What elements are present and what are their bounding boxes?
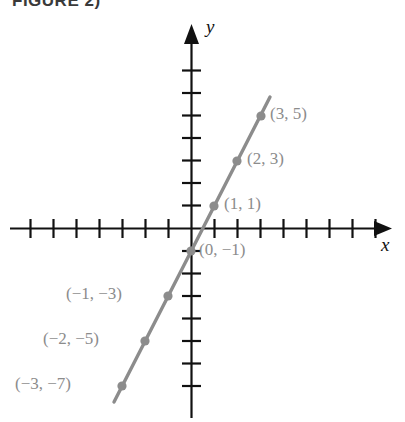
x-axis-label: x — [381, 234, 389, 256]
y-axis-label: y — [206, 16, 214, 38]
point-label-3-5: (3, 5) — [270, 104, 307, 124]
point-label-1-1: (1, 1) — [224, 194, 261, 214]
point-label-neg2-neg5: (−2, −5) — [43, 329, 99, 349]
point-label-neg1-neg3: (−1, −3) — [66, 284, 122, 304]
y-axis — [182, 24, 201, 418]
y-axis-arrowhead — [184, 24, 199, 44]
data-point-neg1-neg3 — [163, 291, 172, 300]
point-label-2-3: (2, 3) — [247, 149, 284, 169]
point-label-0-neg1: (0, −1) — [199, 240, 245, 260]
data-point-2-3 — [232, 156, 241, 165]
data-point-neg2-neg5 — [140, 336, 149, 345]
data-point-neg3-neg7 — [117, 381, 126, 390]
data-point-0-neg1 — [186, 246, 195, 255]
point-label-neg3-neg7: (−3, −7) — [15, 374, 71, 394]
data-point-3-5 — [256, 111, 265, 120]
data-point-1-1 — [209, 201, 218, 210]
figure-container: FIGURE 2) — [0, 0, 405, 422]
coordinate-plane-graph — [0, 0, 405, 422]
